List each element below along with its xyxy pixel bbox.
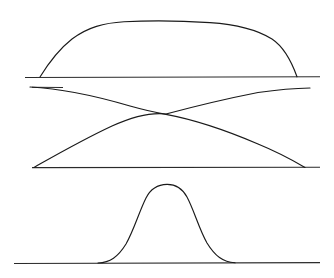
descending-sigmoid-curve — [30, 87, 305, 167]
crossing-curves-panel — [30, 87, 320, 168]
curve-diagram — [0, 0, 334, 278]
plateau-curve — [40, 21, 297, 77]
figure-container — [0, 0, 334, 278]
bell-bump-curve — [98, 184, 235, 263]
ascending-sigmoid-curve — [34, 88, 310, 167]
bump-baseline — [14, 263, 320, 264]
bell-bump-panel — [14, 184, 320, 263]
plateau-curve-panel — [25, 21, 320, 78]
plateau-baseline — [25, 77, 320, 78]
